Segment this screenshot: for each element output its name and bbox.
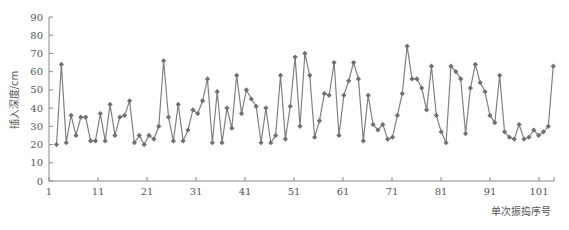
data-point-marker xyxy=(463,131,468,136)
y-tick-label: 90 xyxy=(30,12,43,23)
data-point-marker xyxy=(444,140,449,145)
data-point-marker xyxy=(156,124,161,129)
data-point-marker xyxy=(200,98,205,103)
data-point-marker xyxy=(336,133,341,138)
data-point-marker xyxy=(409,76,414,81)
data-point-marker xyxy=(317,118,322,123)
data-point-marker xyxy=(244,87,249,92)
x-tick-label: 21 xyxy=(141,186,154,197)
x-axis-title: 单次振捣序号 xyxy=(491,205,551,217)
x-tick-label: 41 xyxy=(239,186,252,197)
data-point-marker xyxy=(390,135,395,140)
data-point-marker xyxy=(521,136,526,141)
data-point-marker xyxy=(142,142,147,147)
data-point-marker xyxy=(385,136,390,141)
x-tick-label: 61 xyxy=(337,186,350,197)
y-tick-label: 40 xyxy=(30,103,43,114)
data-point-marker xyxy=(176,102,181,107)
data-point-marker xyxy=(419,85,424,90)
data-point-marker xyxy=(439,129,444,134)
x-tick-label: 91 xyxy=(484,186,497,197)
data-point-marker xyxy=(54,142,59,147)
data-point-marker xyxy=(429,64,434,69)
data-point-marker xyxy=(83,115,88,120)
data-point-marker xyxy=(283,136,288,141)
data-point-marker xyxy=(161,58,166,63)
data-point-marker xyxy=(258,140,263,145)
y-tick-label: 0 xyxy=(37,176,43,187)
data-point-marker xyxy=(351,60,356,65)
data-point-marker xyxy=(88,138,93,143)
data-point-marker xyxy=(234,73,239,78)
series-line xyxy=(57,46,554,144)
data-point-marker xyxy=(205,76,210,81)
data-point-marker xyxy=(117,115,122,120)
data-point-marker xyxy=(78,115,83,120)
data-point-marker xyxy=(69,113,74,118)
x-tick-label: 11 xyxy=(92,186,105,197)
data-point-marker xyxy=(215,89,220,94)
data-point-marker xyxy=(103,138,108,143)
data-point-marker xyxy=(497,73,502,78)
data-series xyxy=(54,44,556,148)
x-tick-label: 31 xyxy=(190,186,203,197)
x-tick-label: 81 xyxy=(435,186,448,197)
data-point-marker xyxy=(405,44,410,49)
data-point-marker xyxy=(166,115,171,120)
data-point-marker xyxy=(293,54,298,59)
data-point-marker xyxy=(434,113,439,118)
data-point-marker xyxy=(341,93,346,98)
data-point-marker xyxy=(263,106,268,111)
data-point-marker xyxy=(181,138,186,143)
data-point-marker xyxy=(127,98,132,103)
y-tick-label: 60 xyxy=(30,66,43,77)
x-tick-label: 71 xyxy=(386,186,399,197)
data-point-marker xyxy=(512,136,517,141)
data-point-marker xyxy=(424,107,429,112)
x-tick-label: 1 xyxy=(46,186,52,197)
data-point-marker xyxy=(331,60,336,65)
data-point-marker xyxy=(239,111,244,116)
data-point-marker xyxy=(322,91,327,96)
y-tick-label: 20 xyxy=(30,139,43,150)
data-point-marker xyxy=(478,80,483,85)
y-tick-label: 50 xyxy=(30,84,43,95)
data-point-marker xyxy=(278,73,283,78)
x-tick-label: 101 xyxy=(529,186,548,197)
data-point-marker xyxy=(468,85,473,90)
x-tick-label: 51 xyxy=(288,186,301,197)
data-point-marker xyxy=(356,76,361,81)
data-point-marker xyxy=(122,113,127,118)
y-tick-label: 10 xyxy=(30,157,43,168)
data-point-marker xyxy=(307,73,312,78)
data-point-marker xyxy=(346,78,351,83)
data-point-marker xyxy=(366,93,371,98)
data-point-marker xyxy=(361,138,366,143)
data-point-marker xyxy=(112,133,117,138)
data-point-marker xyxy=(551,64,556,69)
data-point-marker xyxy=(312,135,317,140)
data-point-marker xyxy=(98,111,103,116)
y-tick-label: 30 xyxy=(30,121,43,132)
data-point-marker xyxy=(414,76,419,81)
data-point-marker xyxy=(473,62,478,67)
data-point-marker xyxy=(288,104,293,109)
data-point-marker xyxy=(395,113,400,118)
y-axis-title: 插入深度/cm xyxy=(8,71,20,130)
data-point-marker xyxy=(107,102,112,107)
x-axis: 1112131415161718191101 xyxy=(46,177,554,197)
data-point-marker xyxy=(482,89,487,94)
data-point-marker xyxy=(229,126,234,131)
data-point-marker xyxy=(327,93,332,98)
data-point-marker xyxy=(171,138,176,143)
data-point-marker xyxy=(185,127,190,132)
y-tick-label: 80 xyxy=(30,30,43,41)
data-point-marker xyxy=(73,133,78,138)
data-point-marker xyxy=(93,138,98,143)
data-point-marker xyxy=(302,51,307,56)
data-point-marker xyxy=(224,106,229,111)
data-point-marker xyxy=(297,124,302,129)
data-point-marker xyxy=(219,140,224,145)
y-axis: 0102030405060708090 xyxy=(30,12,53,187)
data-point-marker xyxy=(210,140,215,145)
